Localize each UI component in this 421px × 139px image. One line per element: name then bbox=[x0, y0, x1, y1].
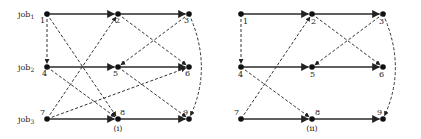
operation-node-8 bbox=[309, 116, 315, 122]
job-shop-disjunctive-graph: job1job2job3 123456789(i)123456789(ii) bbox=[0, 0, 421, 139]
node-label-7: 7 bbox=[40, 108, 45, 117]
operation-node-8 bbox=[115, 116, 121, 122]
operation-node-9 bbox=[380, 116, 386, 122]
node-label-6: 6 bbox=[185, 69, 190, 78]
disjunctive-arc-2-6 bbox=[312, 14, 380, 65]
job-label-subscript: 2 bbox=[30, 66, 34, 73]
node-label-3: 3 bbox=[184, 16, 189, 25]
disjunctive-arc-1-8 bbox=[47, 14, 116, 116]
node-label-8: 8 bbox=[315, 108, 320, 117]
operation-node-2 bbox=[309, 11, 315, 17]
node-label-5: 5 bbox=[310, 70, 315, 79]
node-label-5: 5 bbox=[113, 69, 118, 78]
diagram-2: 123456789(ii) bbox=[234, 11, 395, 133]
diagram-1: 123456789(i) bbox=[40, 11, 201, 133]
operation-node-3 bbox=[380, 11, 386, 17]
disjunctive-arc-7-2 bbox=[47, 17, 116, 119]
disjunctive-arc-4-8 bbox=[47, 67, 115, 117]
job-label-subscript: 3 bbox=[30, 118, 34, 125]
disjunctive-arc-5-9 bbox=[118, 67, 186, 117]
diagram-caption: (ii) bbox=[306, 124, 317, 133]
node-label-4: 4 bbox=[42, 69, 47, 78]
job-label-2: job2 bbox=[17, 63, 34, 73]
node-label-2: 2 bbox=[311, 17, 316, 26]
node-label-1: 1 bbox=[40, 16, 45, 25]
operation-node-1 bbox=[238, 11, 244, 17]
diagram-caption: (i) bbox=[114, 124, 123, 133]
node-label-3: 3 bbox=[379, 17, 384, 26]
operation-node-5 bbox=[309, 64, 315, 70]
node-label-8: 8 bbox=[120, 108, 125, 117]
operation-node-7 bbox=[44, 116, 50, 122]
operation-node-6 bbox=[380, 64, 386, 70]
diagrams: 123456789(i)123456789(ii) bbox=[40, 11, 395, 133]
node-label-6: 6 bbox=[379, 70, 384, 79]
operation-node-4 bbox=[238, 64, 244, 70]
disjunctive-arc-3-5 bbox=[121, 14, 189, 65]
node-label-7: 7 bbox=[234, 108, 239, 117]
job-label-1: job1 bbox=[17, 10, 34, 20]
node-label-1: 1 bbox=[243, 17, 248, 26]
node-label-4: 4 bbox=[238, 70, 243, 79]
operation-node-9 bbox=[186, 116, 192, 122]
node-label-9: 9 bbox=[377, 108, 382, 117]
operation-node-7 bbox=[238, 116, 244, 122]
job-label-3: job3 bbox=[17, 115, 34, 125]
node-label-9: 9 bbox=[183, 108, 188, 117]
disjunctive-arc-3-5 bbox=[315, 14, 383, 65]
node-label-2: 2 bbox=[115, 16, 120, 25]
job-label-subscript: 1 bbox=[30, 13, 34, 20]
disjunctive-arc-4-8 bbox=[241, 67, 309, 117]
job-labels: job1job2job3 bbox=[17, 10, 34, 125]
disjunctive-arc-7-2 bbox=[241, 17, 310, 119]
disjunctive-arc-2-6 bbox=[118, 14, 186, 65]
